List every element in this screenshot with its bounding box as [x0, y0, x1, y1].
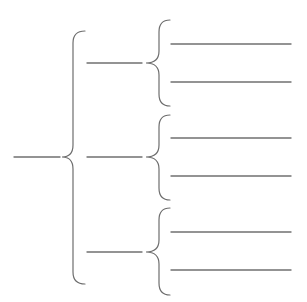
- sub-brace-3: [146, 208, 170, 295]
- sub-brace-2: [146, 115, 170, 200]
- branch-3: [87, 208, 291, 295]
- branch-2: [87, 115, 291, 200]
- brace-tree-diagram: [0, 0, 307, 302]
- branch-1: [87, 20, 291, 106]
- main-brace-path: [62, 31, 85, 284]
- branches: [87, 20, 291, 295]
- main-brace: [62, 31, 85, 284]
- sub-brace-1: [146, 20, 170, 106]
